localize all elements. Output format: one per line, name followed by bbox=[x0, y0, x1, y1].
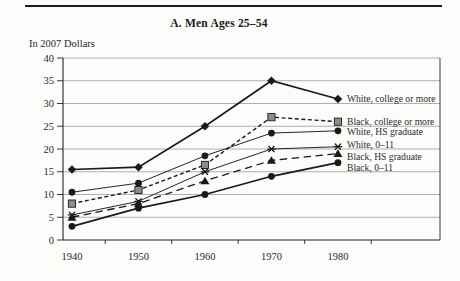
marker-black-0-11 bbox=[135, 205, 142, 212]
legend-label-black-0-11: Black, 0–11 bbox=[347, 162, 393, 173]
y-tick-label: 10 bbox=[44, 189, 55, 200]
y-tick-label: 15 bbox=[44, 166, 55, 177]
line-chart: 051015202530354019401950196019701980Whit… bbox=[0, 0, 460, 281]
marker-white-hs-graduate bbox=[335, 127, 342, 134]
marker-white-0-11 bbox=[334, 144, 341, 149]
y-tick-label: 40 bbox=[44, 53, 55, 64]
marker-white-hs-graduate bbox=[268, 130, 275, 137]
legend-label-black-hs-graduate: Black, HS graduate bbox=[347, 151, 422, 162]
x-tick-label: 1960 bbox=[194, 251, 215, 262]
x-tick-label: 1950 bbox=[128, 251, 149, 262]
y-tick-label: 20 bbox=[44, 144, 55, 155]
marker-white-college-or-more bbox=[134, 163, 143, 172]
marker-black-college-or-more bbox=[268, 114, 275, 121]
marker-black-college-or-more bbox=[201, 161, 208, 168]
y-tick-label: 0 bbox=[49, 235, 54, 246]
legend-label-white-hs-graduate: White, HS graduate bbox=[347, 126, 423, 137]
y-tick-label: 25 bbox=[44, 121, 55, 132]
figure-panel: A. Men Ages 25–54 In 2007 Dollars 051015… bbox=[0, 0, 460, 281]
marker-black-0-11 bbox=[202, 191, 209, 198]
y-tick-label: 35 bbox=[44, 75, 55, 86]
marker-white-hs-graduate bbox=[135, 180, 142, 187]
marker-white-0-11 bbox=[201, 169, 208, 174]
marker-black-0-11 bbox=[335, 159, 342, 166]
x-tick-label: 1970 bbox=[261, 251, 282, 262]
marker-black-hs-graduate bbox=[333, 149, 342, 157]
legend-label-white-0-11: White, 0–11 bbox=[347, 139, 394, 150]
marker-black-0-11 bbox=[69, 223, 76, 230]
marker-black-college-or-more bbox=[135, 186, 142, 193]
y-tick-label: 30 bbox=[44, 98, 55, 109]
marker-white-college-or-more bbox=[334, 95, 343, 104]
y-tick-label: 5 bbox=[49, 212, 54, 223]
marker-white-0-11 bbox=[268, 146, 275, 151]
marker-white-hs-graduate bbox=[69, 189, 76, 196]
legend-label-white-college-or-more: White, college or more bbox=[347, 93, 435, 104]
marker-white-college-or-more bbox=[68, 165, 77, 174]
marker-white-hs-graduate bbox=[202, 152, 209, 159]
marker-black-hs-graduate bbox=[200, 177, 209, 185]
marker-black-0-11 bbox=[268, 173, 275, 180]
x-tick-label: 1980 bbox=[327, 251, 348, 262]
x-tick-label: 1940 bbox=[61, 251, 82, 262]
marker-black-college-or-more bbox=[334, 118, 341, 125]
marker-black-college-or-more bbox=[68, 200, 75, 207]
